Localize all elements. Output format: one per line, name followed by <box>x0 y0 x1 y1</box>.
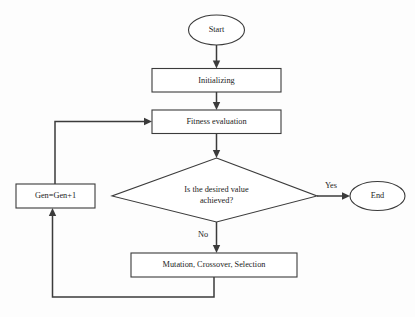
node-initializing-label: Initializing <box>198 76 234 85</box>
node-fitness-evaluation[interactable]: Fitness evaluation <box>152 110 281 134</box>
node-start-label: Start <box>209 25 225 34</box>
connector-initializing-to-fitness <box>213 92 220 110</box>
connector-fitness-to-decision <box>213 133 220 158</box>
node-decision[interactable]: Is the desired value achieved? <box>112 158 317 222</box>
edge-label-yes: Yes <box>325 181 337 190</box>
node-end-label: End <box>371 191 385 200</box>
node-decision-label-line1: Is the desired value <box>184 185 249 194</box>
connector-start-to-initializing <box>213 45 220 69</box>
edge-label-no: No <box>198 230 208 239</box>
connector-generation-to-fitness-loop <box>55 118 152 184</box>
node-operators-label: Mutation, Crossover, Selection <box>163 260 267 269</box>
connector-decision-yes-to-end <box>317 192 350 199</box>
connector-decision-no-to-operators <box>213 222 220 253</box>
flowchart-svg: Start Initializing Fitness evaluation Is… <box>0 0 415 317</box>
node-operators[interactable]: Mutation, Crossover, Selection <box>131 253 297 277</box>
flowchart-canvas: Start Initializing Fitness evaluation Is… <box>0 0 415 317</box>
node-start[interactable]: Start <box>189 15 245 45</box>
node-decision-label-line2: achieved? <box>200 196 233 205</box>
node-generation-label: Gen=Gen+1 <box>35 191 76 200</box>
node-fitness-evaluation-label: Fitness evaluation <box>186 117 247 126</box>
node-generation[interactable]: Gen=Gen+1 <box>16 184 95 208</box>
node-initializing[interactable]: Initializing <box>152 69 281 93</box>
node-end[interactable]: End <box>350 182 405 211</box>
